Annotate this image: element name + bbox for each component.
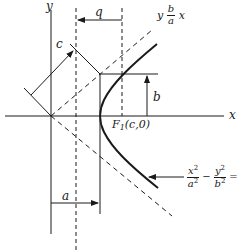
focus-coords: (c,0) <box>125 118 150 131</box>
hyperbola-diagram: y x c q b a F1(c,0) y b a x x2 a2 − y2 b… <box>0 0 240 252</box>
asymptote-numerator: b <box>167 4 175 16</box>
c-segment-top-edge <box>70 44 100 74</box>
hyperbola-equation: x2 a2 − y2 b2 = 1 <box>187 165 240 190</box>
eq-x-fraction: x2 a2 <box>187 165 199 190</box>
asymptote-y: y <box>157 9 163 22</box>
b-label: b <box>153 91 161 103</box>
asymptote-upper <box>51 30 152 116</box>
focus-label: F1(c,0) <box>112 119 150 132</box>
asymptote-denominator: a <box>168 16 174 27</box>
focus-letter: F <box>112 118 120 131</box>
eq-exp: 2 <box>194 177 198 185</box>
eq-minus: − <box>202 171 210 182</box>
eq-rhs: = 1 <box>229 171 240 182</box>
asymptote-slope-fraction: b a <box>167 4 175 26</box>
y-axis-label: y <box>46 0 53 12</box>
c-segment-lower-edge <box>24 88 51 116</box>
eq-exp: 2 <box>194 164 198 172</box>
eq-exp: 2 <box>221 164 225 172</box>
eq-exp: 2 <box>221 177 225 185</box>
q-label: q <box>95 6 103 18</box>
asymptote-x: x <box>179 9 185 22</box>
c-arrow <box>31 51 73 95</box>
x-axis-label: x <box>229 109 236 121</box>
c-label: c <box>56 38 63 50</box>
asymptote-label: y b a x <box>157 4 185 26</box>
eq-y-fraction: y2 b2 <box>214 165 226 190</box>
a-label: a <box>62 190 69 202</box>
